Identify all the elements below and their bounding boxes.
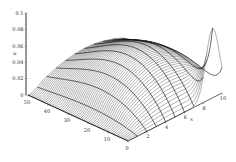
u-tick-label: 0.02 [12, 75, 23, 81]
t-tick-label: 10 [104, 136, 110, 142]
u-tick-label: 0.06 [12, 43, 23, 49]
x-tick-label: 2 [146, 133, 149, 139]
x-tick-label: 4 [165, 124, 168, 130]
t-tick-label: 30 [64, 117, 70, 123]
u-tick-label: 0.1 [16, 10, 24, 16]
t-tick-label: 50 [24, 99, 30, 105]
t-tick-label: 20 [84, 127, 90, 133]
u-tick-label: 0.08 [12, 26, 23, 32]
t-tick-label: 40 [44, 108, 50, 114]
surface-mesh [28, 28, 222, 141]
x-tick-label: 8 [203, 105, 206, 111]
x-tick-label: 6 [184, 114, 187, 120]
surface-plot: 00.020.040.060.080.1u01020304050246810x [0, 0, 236, 162]
x-tick-label: 10 [220, 95, 226, 101]
t-tick-label: 0 [125, 145, 128, 151]
x-axis-label: x [190, 116, 194, 122]
u-tick-label: 0.04 [12, 59, 23, 65]
u-tick-label: 0 [20, 92, 23, 98]
u-axis-label: u [13, 50, 17, 56]
